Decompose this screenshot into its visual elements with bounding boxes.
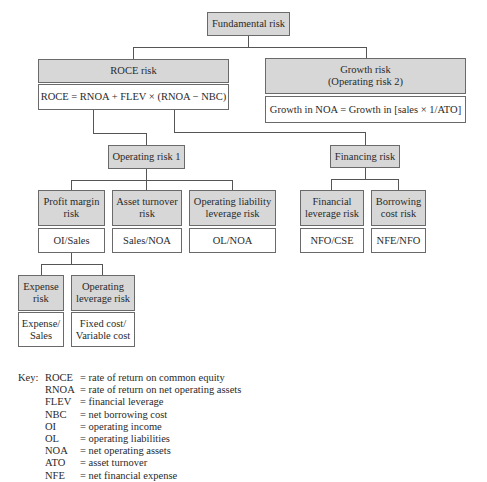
key-def: = asset turnover [80,457,147,469]
connector [331,179,332,190]
connector [331,179,398,180]
key-def: = net financial expense [80,470,177,482]
connector [146,133,147,145]
roce-formula-box: ROCE = RNOA + FLEV × (RNOA − NBC) [38,84,229,110]
key-abbr: NOA [45,445,80,457]
financing-risk-box: Financing risk [330,145,400,168]
key-def: = net operating assets [80,445,171,457]
connector [71,252,72,264]
connector [398,179,399,190]
asset-turnover-risk-box: Asset turnover risk [112,190,182,226]
connector [146,168,147,180]
connector [41,264,42,275]
key-row: Key:ROCE= rate of return on common equit… [18,372,241,384]
financial-leverage-risk-box: Financial leverage risk [300,190,364,226]
connector [71,180,72,190]
connector [365,167,366,179]
connector [248,35,249,47]
connector [133,47,134,59]
key-legend: Key:ROCE= rate of return on common equit… [18,372,241,482]
key-abbr: ATO [45,457,80,469]
key-row: NFE= net financial expense [18,470,241,482]
connector [133,47,366,48]
financial-leverage-formula-box: NFO/CSE [300,228,364,253]
key-row: FLEV= financial leverage [18,396,241,408]
operating-risk-1-box: Operating risk 1 [108,145,185,169]
connector [365,132,366,145]
key-abbr: NFE [45,470,80,482]
operating-leverage-formula-box: Fixed cost/ Variable cost [71,312,135,347]
operating-leverage-risk-box: Operating leverage risk [71,275,135,311]
key-row: NBC= net borrowing cost [18,409,241,421]
key-row: RNOA= rate of return on net operating as… [18,384,241,396]
connector [366,47,367,58]
asset-turnover-formula-box: Sales/NOA [112,228,182,253]
expense-risk-box: Expense risk [18,275,64,311]
key-row: OI= operating income [18,421,241,433]
connector [146,180,147,190]
growth-risk-box: Growth risk (Operating risk 2) [265,58,466,94]
key-def: = operating liabilities [80,433,170,445]
key-def: = net borrowing cost [80,409,167,421]
key-def: = operating income [80,421,162,433]
key-abbr: ROCE [45,372,80,384]
key-row: NOA= net operating assets [18,445,241,457]
profit-margin-risk-box: Profit margin risk [38,190,105,226]
key-abbr: RNOA [45,384,80,396]
connector [174,109,175,132]
key-abbr: OI [45,421,80,433]
operating-liability-leverage-formula-box: OL/NOA [189,228,276,253]
key-abbr: NBC [45,409,80,421]
key-def: = rate of return on net operating assets [80,384,241,396]
connector [41,264,102,265]
profit-margin-formula-box: OI/Sales [38,228,105,253]
operating-liability-leverage-risk-box: Operating liability leverage risk [189,190,276,226]
fundamental-risk-box: Fundamental risk [207,12,290,36]
expense-formula-box: Expense/ Sales [18,312,64,347]
growth-formula-box: Growth in NOA = Growth in [sales × 1/ATO… [265,96,466,123]
key-def: = financial leverage [80,396,163,408]
key-def: = rate of return on common equity [80,372,225,384]
borrowing-cost-formula-box: NFE/NFO [371,228,426,253]
key-label: Key: [18,372,45,384]
connector [71,180,232,181]
roce-risk-box: ROCE risk [38,59,229,83]
connector [102,264,103,275]
key-abbr: FLEV [45,396,80,408]
connector [174,132,365,133]
connector [93,109,94,133]
key-abbr: OL [45,433,80,445]
borrowing-cost-risk-box: Borrowing cost risk [371,190,426,226]
key-row: ATO= asset turnover [18,457,241,469]
connector [93,133,146,134]
connector [232,180,233,190]
key-row: OL= operating liabilities [18,433,241,445]
